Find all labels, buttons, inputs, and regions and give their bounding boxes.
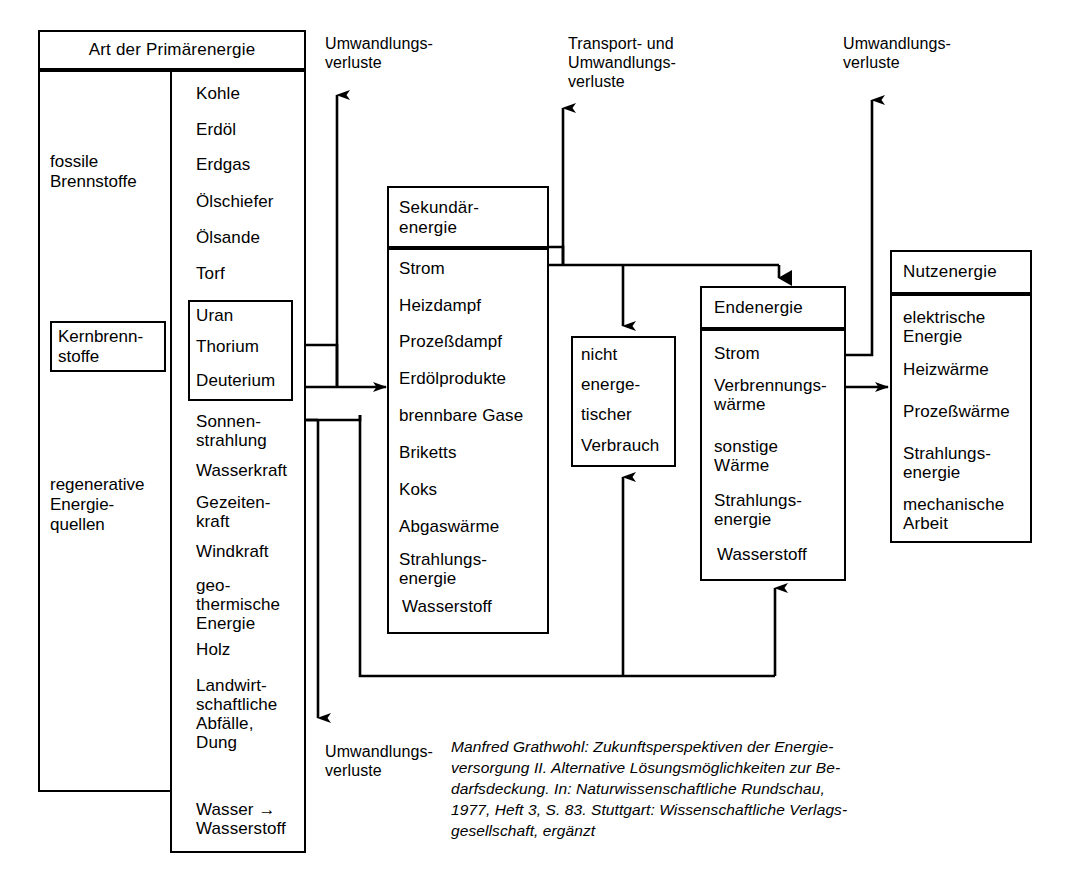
primary-item: Torf <box>196 264 225 283</box>
primary-item: Erdgas <box>196 155 250 174</box>
primary-item: Uran <box>196 306 233 325</box>
primary-item: Ölsande <box>196 228 260 247</box>
useful-energy-header-label: Nutzenergie <box>903 250 1032 294</box>
primary-category-kernbrennstoffe: Kernbrenn- stoffe <box>58 327 168 367</box>
primary-energy-header-label: Art der Primärenergie <box>38 30 306 70</box>
secondary-item: Briketts <box>399 443 456 462</box>
secondary-item: brennbare Gase <box>399 406 523 425</box>
secondary-item: Heizdampf <box>399 296 481 315</box>
primary-category-fossile: fossile Brennstoffe <box>50 152 170 192</box>
loss-label-top-middle: Transport- und Umwandlungs- verluste <box>568 34 676 91</box>
non-energetic-line: tischer <box>581 405 632 424</box>
primary-item: Holz <box>196 640 230 659</box>
primary-item: Erdöl <box>196 120 236 139</box>
energy-flow-diagram: Art der Primärenergie fossile Brennstoff… <box>0 0 1070 891</box>
source-caption: Manfred Grathwohl: Zukunftsperspektiven … <box>451 736 1051 841</box>
useful-item: mechanische Arbeit <box>903 495 1004 533</box>
final-item: Verbrennungs- wärme <box>714 376 827 414</box>
loss-label-bottom-left: Umwandlungs- verluste <box>325 742 433 780</box>
primary-item: Wasserkraft <box>196 461 287 480</box>
primary-item: Gezeiten- kraft <box>196 493 271 531</box>
secondary-energy-header-label: Sekundär- energie <box>399 192 549 244</box>
final-item: Wasserstoff <box>717 545 807 564</box>
non-energetic-line: energe- <box>581 375 640 394</box>
useful-item: elektrische Energie <box>903 308 985 346</box>
primary-item: geo- thermische Energie <box>196 576 280 633</box>
secondary-item: Strahlungs- energie <box>399 550 487 588</box>
final-item: Strahlungs- energie <box>714 491 802 529</box>
secondary-item: Erdölprodukte <box>399 369 506 388</box>
primary-item: Thorium <box>196 337 259 356</box>
primary-item: Windkraft <box>196 542 269 561</box>
final-item: Strom <box>714 344 760 363</box>
primary-item: Ölschiefer <box>196 192 274 211</box>
primary-item: Wasser → Wasserstoff <box>196 800 286 838</box>
useful-item: Prozeßwärme <box>903 402 1010 421</box>
non-energetic-line: nicht <box>581 345 617 364</box>
secondary-item: Abgaswärme <box>399 517 499 536</box>
primary-item: Deuterium <box>196 371 275 390</box>
secondary-item: Wasserstoff <box>402 597 492 616</box>
useful-item: Heizwärme <box>903 360 989 379</box>
primary-item: Sonnen- strahlung <box>196 412 267 450</box>
primary-item: Landwirt- schaftliche Abfälle, Dung <box>196 676 277 752</box>
non-energetic-line: Verbrauch <box>581 436 659 455</box>
secondary-item: Koks <box>399 480 437 499</box>
loss-label-top-left: Umwandlungs- verluste <box>325 34 433 72</box>
useful-item: Strahlungs- energie <box>903 444 991 482</box>
arrow-loss-top-right <box>846 100 872 355</box>
loss-label-top-right: Umwandlungs- verluste <box>843 34 951 72</box>
primary-item: Kohle <box>196 84 240 103</box>
final-item: sonstige Wärme <box>714 437 778 475</box>
final-energy-header-label: Endenergie <box>714 286 846 329</box>
secondary-item: Strom <box>399 259 445 278</box>
primary-category-regenerative: regenerative Energie- quellen <box>50 475 172 535</box>
secondary-item: Prozeßdampf <box>399 332 502 351</box>
